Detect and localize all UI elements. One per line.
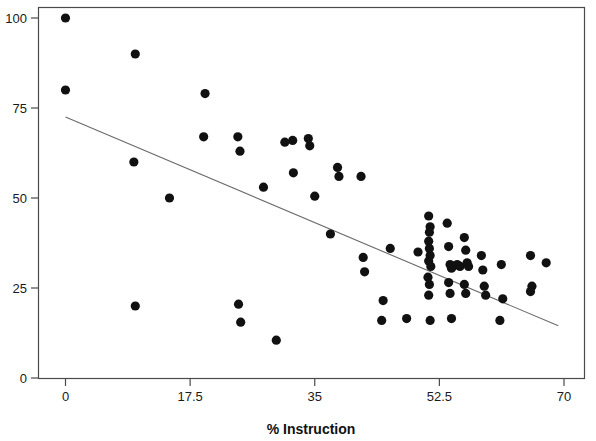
scatter-plot-figure: 0255075100 017.53552.570 % Instruction [0, 0, 596, 441]
x-tick-label: 17.5 [177, 389, 202, 404]
data-point [443, 219, 452, 228]
data-point [498, 294, 507, 303]
data-point [61, 85, 70, 94]
data-point [526, 287, 535, 296]
data-point [310, 192, 319, 201]
data-point [235, 147, 244, 156]
data-point [425, 280, 434, 289]
data-points-group [61, 13, 551, 344]
data-point [424, 211, 433, 220]
data-point [386, 244, 395, 253]
data-point [233, 132, 242, 141]
data-point [165, 193, 174, 202]
data-point [234, 300, 243, 309]
data-point [444, 242, 453, 251]
data-point [360, 267, 369, 276]
data-point [333, 163, 342, 172]
y-axis-ticks: 0255075100 [5, 11, 38, 386]
chart-canvas: 0255075100 017.53552.570 % Instruction [0, 0, 596, 441]
x-axis-title: % Instruction [267, 421, 356, 437]
data-point [480, 282, 489, 291]
data-point [460, 280, 469, 289]
data-point [426, 316, 435, 325]
data-point [477, 251, 486, 260]
data-point [305, 141, 314, 150]
data-point [447, 314, 456, 323]
data-point [289, 168, 298, 177]
data-point [495, 316, 504, 325]
y-tick-label: 75 [13, 101, 27, 116]
data-point [272, 336, 281, 345]
data-point [199, 132, 208, 141]
data-point [426, 262, 435, 271]
data-point [461, 246, 470, 255]
data-point [359, 253, 368, 262]
y-tick-label: 25 [13, 281, 27, 296]
data-point [445, 289, 454, 298]
data-point [424, 291, 433, 300]
data-point [326, 229, 335, 238]
x-tick-label: 0 [62, 389, 69, 404]
data-point [379, 296, 388, 305]
data-point [542, 258, 551, 267]
data-point [280, 138, 289, 147]
data-point [526, 251, 535, 260]
data-point [402, 314, 411, 323]
x-axis-ticks: 017.53552.570 [62, 379, 571, 405]
y-tick-label: 50 [13, 191, 27, 206]
data-point [464, 262, 473, 271]
data-point [413, 247, 422, 256]
data-point [481, 291, 490, 300]
data-point [129, 157, 138, 166]
data-point [131, 49, 140, 58]
x-tick-label: 52.5 [427, 389, 452, 404]
data-point [200, 89, 209, 98]
x-tick-label: 70 [557, 389, 571, 404]
data-point [460, 233, 469, 242]
data-point [259, 183, 268, 192]
data-point [288, 136, 297, 145]
data-point [497, 260, 506, 269]
y-tick-label: 0 [20, 371, 27, 386]
data-point [236, 318, 245, 327]
y-tick-label: 100 [5, 11, 27, 26]
data-point [444, 278, 453, 287]
data-point [461, 289, 470, 298]
data-point [334, 172, 343, 181]
data-point [478, 265, 487, 274]
data-point [61, 13, 70, 22]
data-point [425, 228, 434, 237]
data-point [131, 301, 140, 310]
x-tick-label: 35 [308, 389, 322, 404]
data-point [356, 172, 365, 181]
data-point [377, 316, 386, 325]
